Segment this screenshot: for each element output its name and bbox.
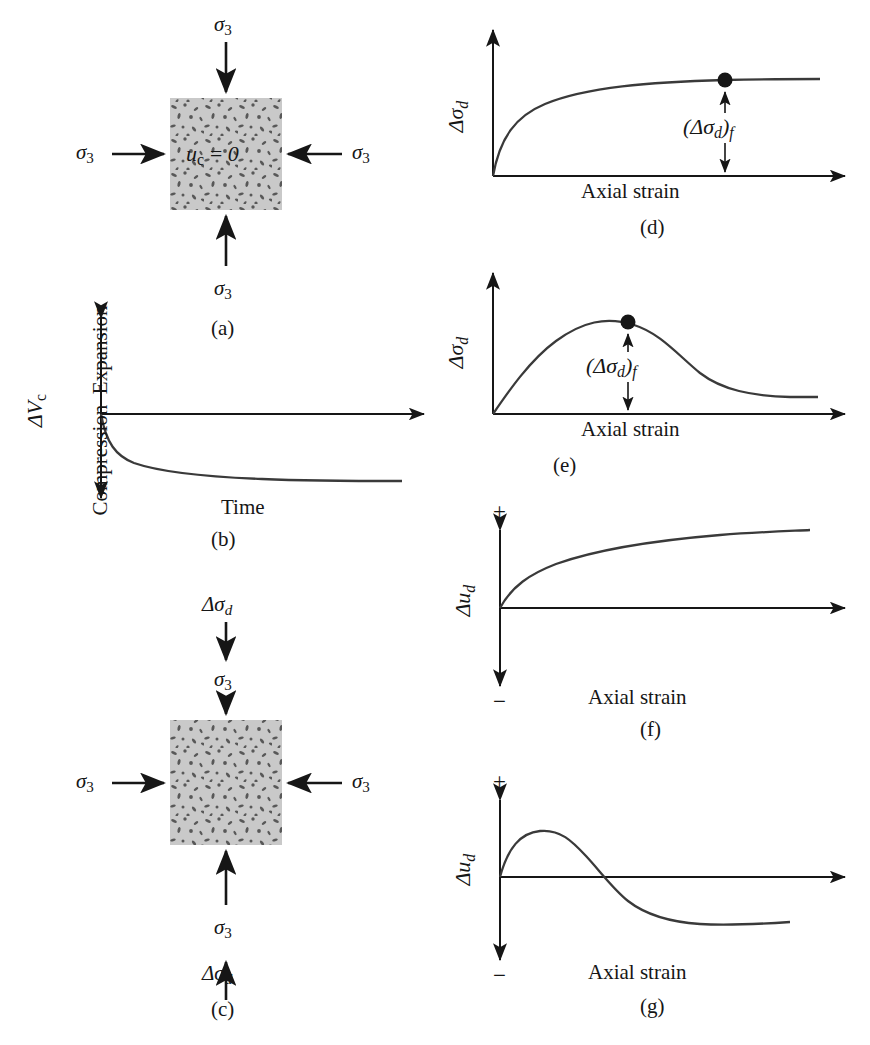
label-delta-vc-b: ΔVc bbox=[24, 394, 49, 427]
caption-f: (f) bbox=[640, 719, 661, 740]
label-sigma3-bottom-a: σ3 bbox=[214, 278, 232, 302]
label-sigma3-bottom-c: σ3 bbox=[214, 917, 232, 941]
label-sigma3-left-a: σ3 bbox=[76, 142, 94, 166]
caption-g: (g) bbox=[640, 996, 665, 1017]
caption-c: (c) bbox=[211, 999, 234, 1020]
label-axial-strain-d: Axial strain bbox=[581, 181, 680, 202]
label-minus-g: − bbox=[493, 964, 506, 987]
panel-e-curve bbox=[493, 321, 818, 414]
panel-d-curve bbox=[493, 79, 820, 176]
label-axial-strain-e: Axial strain bbox=[581, 419, 680, 440]
panel-f-curve bbox=[500, 530, 810, 608]
label-plus-f: + bbox=[493, 500, 506, 523]
label-minus-f: − bbox=[493, 690, 506, 713]
label-sigma3-left-c: σ3 bbox=[76, 771, 94, 795]
label-axial-strain-g: Axial strain bbox=[588, 962, 687, 983]
panel-d-failure-point bbox=[718, 73, 733, 88]
label-delta-sigma-d-bottom-c: Δσd bbox=[202, 963, 232, 987]
caption-a: (a) bbox=[211, 318, 234, 339]
caption-b: (b) bbox=[211, 529, 236, 550]
panel-e-failure-point bbox=[621, 315, 636, 330]
label-sigma3-right-a: σ3 bbox=[352, 142, 370, 166]
label-time-b: Time bbox=[221, 497, 265, 518]
caption-e: (e) bbox=[553, 455, 576, 476]
specimen-box-c bbox=[170, 720, 282, 845]
annotation-delta-sigma-df-d: (Δσd)f bbox=[683, 116, 734, 141]
label-delta-sigma-d-axis-e: Δσd bbox=[445, 337, 470, 369]
annotation-delta-sigma-df-e: (Δσd)f bbox=[586, 355, 637, 380]
label-plus-g: + bbox=[493, 770, 506, 793]
caption-d: (d) bbox=[640, 217, 665, 238]
label-uc-zero-a: uc = 0 bbox=[186, 143, 239, 168]
panel-a-graphics bbox=[0, 0, 870, 1045]
label-sigma3-right-c: σ3 bbox=[352, 771, 370, 795]
label-sigma3-top-a: σ3 bbox=[214, 14, 232, 38]
figure-root: σ3 σ3 σ3 σ3 uc = 0 (a) ΔVc Compression E… bbox=[0, 0, 870, 1045]
label-delta-sigma-d-top-c: Δσd bbox=[202, 594, 232, 618]
label-compression-expansion-b: Compression Expansion bbox=[90, 296, 111, 526]
label-delta-ud-axis-f: Δud bbox=[452, 585, 477, 617]
label-sigma3-top-c: σ3 bbox=[214, 669, 232, 693]
label-axial-strain-f: Axial strain bbox=[588, 687, 687, 708]
panel-b-curve bbox=[101, 414, 402, 481]
label-delta-ud-axis-g: Δud bbox=[452, 854, 477, 886]
label-delta-sigma-d-axis-d: Δσd bbox=[445, 101, 470, 133]
